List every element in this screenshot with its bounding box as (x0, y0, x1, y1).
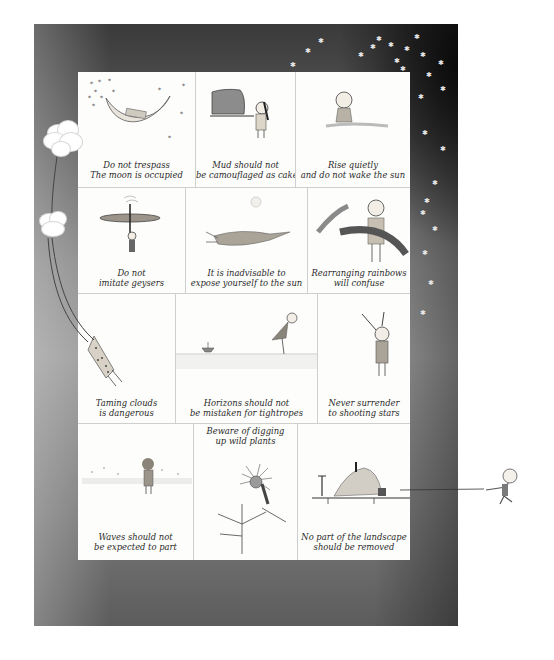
child-pulling-rope-figure (482, 466, 522, 506)
cloud-string (0, 0, 554, 660)
